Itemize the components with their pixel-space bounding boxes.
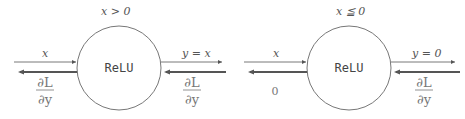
- backward-input-gradient: ∂L ∂y: [183, 75, 201, 107]
- forward-input-label: x: [42, 47, 49, 60]
- relu-diagram: x > 0 ReLU x ∂L ∂y y = x ∂L ∂y x ≦ 0 ReL…: [0, 0, 465, 119]
- panel-nonpositive: x ≦ 0 ReLU x 0 y = 0 ∂L ∂y: [244, 5, 460, 110]
- condition-label: x > 0: [101, 5, 130, 18]
- forward-output-label: y = x: [181, 47, 211, 60]
- relu-node-label: ReLU: [105, 61, 134, 75]
- panel-positive: x > 0 ReLU x ∂L ∂y y = x ∂L ∂y: [14, 5, 226, 110]
- backward-output-zero: 0: [272, 85, 279, 98]
- forward-output-label: y = 0: [411, 47, 441, 60]
- backward-output-gradient: ∂L ∂y: [36, 75, 54, 107]
- svg-text:∂L: ∂L: [37, 75, 53, 90]
- forward-input-label: x: [273, 47, 280, 60]
- svg-text:∂y: ∂y: [185, 92, 200, 107]
- svg-text:∂y: ∂y: [417, 92, 432, 107]
- relu-node-label: ReLU: [335, 61, 364, 75]
- backward-input-gradient: ∂L ∂y: [415, 75, 433, 107]
- svg-text:∂L: ∂L: [416, 75, 432, 90]
- svg-text:∂y: ∂y: [38, 92, 53, 107]
- svg-text:∂L: ∂L: [184, 75, 200, 90]
- condition-label: x ≦ 0: [336, 5, 365, 18]
